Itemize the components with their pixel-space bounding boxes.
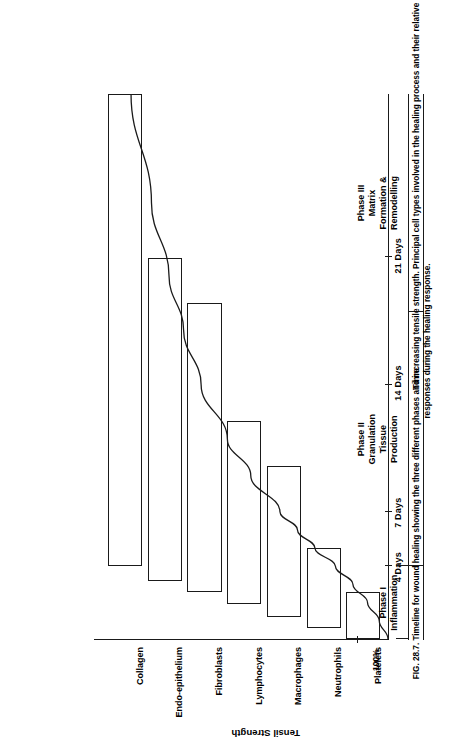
tensile-strength-path <box>131 94 388 639</box>
phase-text-line: Matrix <box>367 155 378 251</box>
phase-text-line: Phase II <box>356 391 367 487</box>
phase-label-3: Phase IIIMatrixFormation &Remodelling <box>356 155 400 251</box>
figure-number: FIG. 28.7. <box>412 643 421 679</box>
phase-label-2: Phase IIGranulationTissueProduction <box>356 391 400 487</box>
phase-text-line: Formation & <box>378 155 389 251</box>
figure-caption-area: FIG. 28.7. Timeline for wound healing sh… <box>399 0 445 733</box>
figure-caption: FIG. 28.7. Timeline for wound healing sh… <box>411 0 433 691</box>
phase-text-line: Granulation <box>367 391 378 487</box>
caption-text: Timeline for wound healing showing the t… <box>412 3 432 641</box>
phase-label-1: Phase IInflammation <box>378 555 400 651</box>
phase-text-line: Phase III <box>356 155 367 251</box>
phase-text-line: Tissue <box>378 391 389 487</box>
phase-text-line: Phase I <box>378 555 389 651</box>
